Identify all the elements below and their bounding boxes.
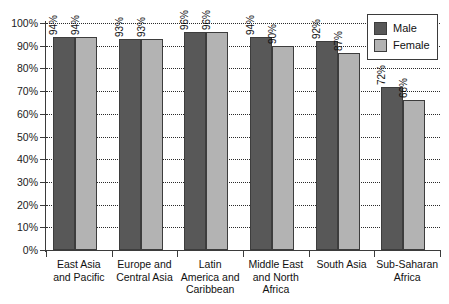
- x-axis-tick: [243, 250, 244, 257]
- chart-legend: Male Female: [367, 14, 438, 60]
- bar-group: 94%90%: [243, 23, 309, 250]
- legend-label-male: Male: [393, 23, 417, 34]
- y-axis-tick-label: 80%: [0, 63, 38, 74]
- bar-male: 94%: [250, 37, 272, 250]
- bar-female: 93%: [141, 39, 163, 250]
- bar-female: 94%: [75, 37, 97, 250]
- bar-value-label: 94%: [71, 15, 81, 35]
- bar-group: 93%93%: [112, 23, 178, 250]
- bar-chart: 100%90%80%70%60%50%40%30%20%10%0% 94%94%…: [0, 0, 449, 304]
- y-axis-tick-label: 100%: [0, 18, 38, 29]
- x-axis-tick: [46, 250, 47, 257]
- y-axis-tick-label: 10%: [0, 222, 38, 233]
- y-axis-tick-label: 60%: [0, 109, 38, 120]
- legend-item-female: Female: [374, 37, 430, 54]
- y-axis-tick-label: 30%: [0, 177, 38, 188]
- bar-value-label: 93%: [137, 17, 147, 37]
- bar-value-label: 96%: [202, 10, 212, 30]
- bar-group: 96%96%: [177, 23, 243, 250]
- bar-male: 93%: [119, 39, 141, 250]
- bar-value-label: 94%: [246, 15, 256, 35]
- bar-value-label: 66%: [399, 78, 409, 98]
- y-axis-tick-label: 40%: [0, 154, 38, 165]
- bar-female: 96%: [206, 32, 228, 250]
- bar-group: 94%94%: [46, 23, 112, 250]
- y-axis-tick-label: 50%: [0, 132, 38, 143]
- x-axis-tick: [309, 250, 310, 257]
- bar-value-label: 87%: [334, 31, 344, 51]
- bar-female: 87%: [338, 53, 360, 250]
- bar-group: 92%87%: [309, 23, 375, 250]
- legend-swatch-male-icon: [374, 22, 387, 35]
- y-axis-tick-label: 90%: [0, 41, 38, 52]
- bar-value-label: 96%: [180, 10, 190, 30]
- bar-male: 92%: [316, 41, 338, 250]
- y-axis-tick-label: 0%: [0, 245, 38, 256]
- bar-value-label: 72%: [377, 65, 387, 85]
- y-axis-tick-label: 70%: [0, 86, 38, 97]
- legend-label-female: Female: [393, 40, 430, 51]
- bar-female: 90%: [272, 46, 294, 250]
- bar-male: 72%: [381, 87, 403, 250]
- x-axis-tick: [112, 250, 113, 257]
- legend-swatch-female-icon: [374, 39, 387, 52]
- bar-male: 94%: [53, 37, 75, 250]
- x-axis-tick: [440, 250, 441, 257]
- bar-value-label: 92%: [312, 19, 322, 39]
- x-axis-tick: [374, 250, 375, 257]
- x-axis-tick: [177, 250, 178, 257]
- x-axis-category-label: Sub-SaharanAfrica: [368, 258, 446, 283]
- bar-value-label: 93%: [115, 17, 125, 37]
- bar-value-label: 94%: [49, 15, 59, 35]
- legend-item-male: Male: [374, 20, 430, 37]
- y-axis-tick-label: 20%: [0, 200, 38, 211]
- bar-value-label: 90%: [268, 24, 278, 44]
- bar-male: 96%: [184, 32, 206, 250]
- bar-female: 66%: [403, 100, 425, 250]
